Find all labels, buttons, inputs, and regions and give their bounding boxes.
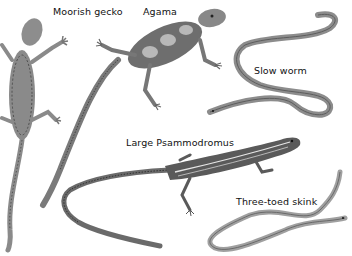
reptiles-drawing: [0, 0, 352, 256]
reptile-illustration: Moorish gecko Agama Slow worm Large Psam…: [0, 0, 352, 256]
label-slow-worm: Slow worm: [254, 65, 307, 76]
label-three-toed-skink: Three-toed skink: [236, 196, 317, 207]
label-moorish-gecko: Moorish gecko: [53, 6, 123, 17]
moorish-gecko-drawing: [2, 15, 68, 250]
three-toed-skink-drawing: [210, 172, 345, 249]
label-agama: Agama: [143, 6, 177, 17]
large-psammodromus-drawing: [64, 138, 300, 246]
label-large-psammodromus: Large Psammodromus: [126, 137, 234, 148]
